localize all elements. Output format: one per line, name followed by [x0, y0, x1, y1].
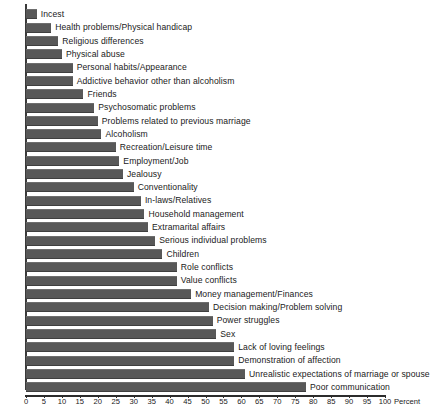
bar — [26, 222, 148, 232]
bar — [26, 369, 245, 379]
bar — [26, 63, 73, 73]
bar — [26, 89, 83, 99]
bar-label: Extramarital affairs — [152, 223, 225, 232]
bar — [26, 142, 116, 152]
bar-label: Religious differences — [62, 37, 143, 46]
bar — [26, 23, 51, 33]
bar-label: Jealousy — [127, 170, 162, 179]
bar — [26, 209, 144, 219]
bar — [26, 329, 216, 339]
bar — [26, 356, 234, 366]
tick-label: 45 — [183, 398, 191, 406]
tick-label: 100 — [379, 398, 392, 406]
bar — [26, 76, 73, 86]
bar — [26, 49, 62, 59]
tick-label: 35 — [147, 398, 155, 406]
tick-label: 65 — [255, 398, 263, 406]
bar-label: In-laws/Relatives — [145, 196, 211, 205]
bar — [26, 169, 123, 179]
bar-label: Personal habits/Appearance — [77, 63, 187, 72]
bar-label: Health problems/Physical handicap — [55, 23, 192, 32]
plot-area: IncestHealth problems/Physical handicapR… — [0, 4, 431, 394]
bar — [26, 156, 119, 166]
bar-label: Household management — [148, 210, 243, 219]
tick-label: 5 — [42, 398, 46, 406]
tick-label: 20 — [94, 398, 102, 406]
tick-label: 60 — [237, 398, 245, 406]
bar-label: Power struggles — [217, 316, 280, 325]
bar-label: Value conflicts — [181, 276, 237, 285]
bar-label: Incest — [41, 10, 64, 19]
tick-label: 70 — [273, 398, 281, 406]
bar — [26, 342, 234, 352]
bar-label: Employment/Job — [123, 157, 188, 166]
axis-unit-label: Percent — [394, 398, 420, 406]
bar-label: Physical abuse — [66, 50, 125, 59]
bar-label: Lack of loving feelings — [238, 343, 325, 352]
bar — [26, 116, 98, 126]
bar — [26, 249, 162, 259]
tick-label: 75 — [291, 398, 299, 406]
bar-label: Money management/Finances — [195, 290, 313, 299]
tick-label: 0 — [24, 398, 28, 406]
bar-label: Children — [166, 250, 199, 259]
bar-label: Problems related to previous marriage — [102, 117, 251, 126]
bar-label: Unrealistic expectations of marriage or … — [249, 370, 430, 379]
bar — [26, 103, 94, 113]
bar-label: Conventionality — [138, 183, 198, 192]
tick-label: 40 — [165, 398, 173, 406]
bar — [26, 289, 191, 299]
bar — [26, 182, 134, 192]
tick-label: 10 — [58, 398, 66, 406]
bar — [26, 9, 37, 19]
tick-label: 15 — [76, 398, 84, 406]
bar-row: Poor communication — [26, 380, 390, 395]
bar-label: Poor communication — [310, 383, 390, 392]
tick-label: 30 — [129, 398, 137, 406]
tick-label: 50 — [201, 398, 209, 406]
bar — [26, 129, 101, 139]
bar-label: Serious individual problems — [159, 236, 266, 245]
value-axis-ticks: Percent 05101520253035404550556065707580… — [0, 395, 431, 408]
tick-label: 55 — [219, 398, 227, 406]
bar-label: Sex — [220, 330, 235, 339]
bar-label: Addictive behavior other than alcoholism — [77, 77, 235, 86]
tick-label: 95 — [363, 398, 371, 406]
tick-label: 80 — [309, 398, 317, 406]
bar — [26, 316, 213, 326]
bar-label: Alcoholism — [105, 130, 147, 139]
bar-label: Role conflicts — [181, 263, 233, 272]
bar-label: Recreation/Leisure time — [120, 143, 213, 152]
bar — [26, 196, 141, 206]
bar-label: Friends — [87, 90, 116, 99]
tick-label: 90 — [345, 398, 353, 406]
bar — [26, 262, 177, 272]
bar-series: IncestHealth problems/Physical handicapR… — [0, 4, 431, 392]
bar — [26, 236, 155, 246]
tick-label: 25 — [112, 398, 120, 406]
bar-label: Demonstration of affection — [238, 356, 340, 365]
bar — [26, 382, 306, 392]
bar — [26, 276, 177, 286]
bar-chart: IncestHealth problems/Physical handicapR… — [0, 0, 431, 408]
tick-label: 85 — [327, 398, 335, 406]
bar — [26, 302, 209, 312]
bar-label: Decision making/Problem solving — [213, 303, 342, 312]
bar-label: Psychosomatic problems — [98, 103, 195, 112]
bar — [26, 36, 58, 46]
